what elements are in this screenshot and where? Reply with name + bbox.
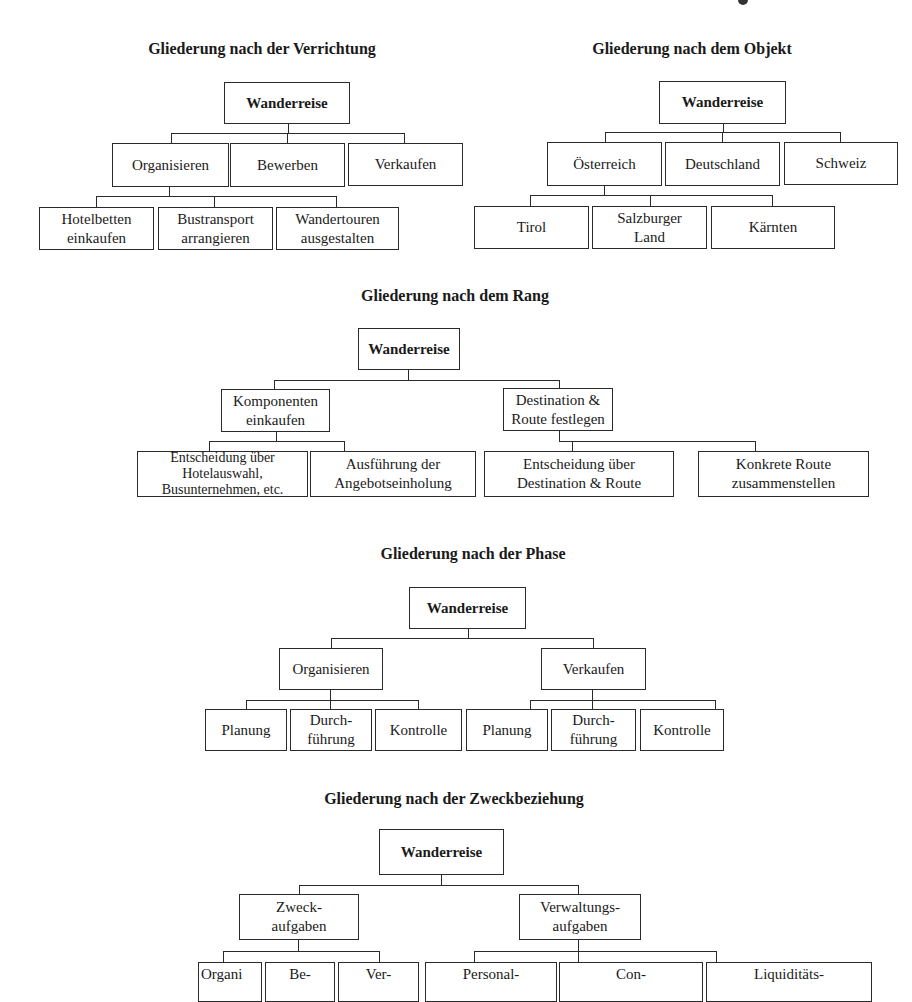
connector (404, 133, 405, 143)
node-ver: Ver- (338, 962, 419, 1002)
connector (96, 196, 337, 197)
section-title: Gliederung nach der Zweckbeziehung (324, 790, 584, 808)
connector (723, 124, 724, 132)
connector (605, 132, 841, 133)
connector (474, 951, 717, 952)
connector (336, 196, 337, 207)
connector (468, 629, 469, 638)
connector (572, 441, 756, 442)
connector (530, 195, 531, 206)
connector (604, 186, 605, 195)
connector (605, 132, 606, 142)
connector (755, 441, 756, 451)
node-bustransport: Bustransport arrangieren (158, 207, 273, 250)
node-verkaufen: Verkaufen (541, 648, 646, 690)
connector (246, 700, 247, 709)
section-title: Gliederung nach der Verrichtung (148, 40, 376, 58)
node-personal: Personal- (425, 962, 557, 1002)
node-wandertouren: Wandertouren ausgestalten (276, 207, 399, 250)
node-be: Be- (265, 962, 335, 1002)
node-bewerben: Bewerben (230, 143, 345, 187)
connector (209, 441, 345, 442)
connector (299, 885, 579, 886)
node-durchfuehrung: Durch- führung (551, 709, 636, 751)
node-verwaltungsaufgaben: Verwaltungs- aufgaben (519, 894, 641, 940)
connector (715, 700, 716, 709)
connector (530, 195, 773, 196)
node-komponenten-einkaufen: Komponenten einkaufen (221, 389, 330, 432)
connector (408, 370, 409, 380)
node-schweiz: Schweiz (784, 142, 898, 185)
page-fragment-mark (738, 0, 748, 5)
connector (530, 700, 716, 701)
connector (559, 441, 573, 442)
connector (171, 133, 405, 134)
connector (276, 432, 277, 441)
node-deutschland: Deutschland (665, 142, 780, 186)
node-entscheidung-hotelauswahl: Entscheidung über Hotelauswahl, Busunter… (137, 451, 308, 497)
connector (530, 700, 531, 709)
node-tirol: Tirol (474, 206, 589, 249)
connector (379, 951, 380, 962)
connector (559, 380, 560, 388)
node-hotelbetten: Hotelbetten einkaufen (39, 207, 154, 250)
node-kontrolle: Kontrolle (640, 709, 724, 751)
connector (274, 380, 560, 381)
connector (331, 638, 594, 639)
node-kontrolle: Kontrolle (375, 709, 462, 751)
node-konkrete-route: Konkrete Route zusammenstellen (698, 451, 869, 497)
connector (298, 940, 299, 951)
root-node: Wanderreise (224, 82, 350, 124)
connector (287, 133, 288, 143)
node-planung: Planung (205, 709, 287, 751)
node-salzburger-land: Salzburger Land (592, 206, 707, 249)
connector (418, 700, 419, 709)
connector (592, 700, 593, 709)
connector (559, 431, 560, 441)
connector (716, 951, 717, 962)
connector (441, 875, 442, 885)
connector (330, 690, 331, 700)
node-entscheidung-destination: Entscheidung über Destination & Route (484, 451, 674, 497)
node-organisieren: Organisieren (279, 648, 383, 690)
node-oesterreich: Österreich (547, 142, 662, 186)
connector (288, 124, 289, 133)
section-title: Gliederung nach der Phase (380, 545, 565, 563)
connector (722, 132, 723, 142)
node-planung: Planung (466, 709, 548, 751)
connector (592, 690, 593, 700)
connector (169, 187, 170, 196)
connector (344, 441, 345, 451)
connector (223, 951, 224, 962)
connector (331, 638, 332, 648)
connector (214, 196, 215, 207)
connector (209, 441, 210, 451)
root-node: Wanderreise (659, 81, 786, 124)
root-node: Wanderreise (358, 328, 460, 370)
connector (223, 951, 380, 952)
node-kaernten: Kärnten (711, 206, 835, 249)
node-liquiditaets: Liquiditäts- (706, 962, 872, 1002)
root-node: Wanderreise (379, 829, 504, 875)
connector (593, 638, 594, 648)
node-con: Con- (559, 962, 703, 1002)
connector (330, 700, 331, 709)
node-organi: Organi (198, 962, 262, 1002)
connector (578, 951, 579, 962)
connector (96, 196, 97, 207)
connector (474, 951, 475, 962)
connector (578, 940, 579, 951)
node-zweckaufgaben: Zweck- aufgaben (239, 894, 359, 940)
connector (572, 441, 573, 451)
connector (171, 133, 172, 143)
connector (246, 700, 419, 701)
node-verkaufen: Verkaufen (348, 143, 463, 186)
section-title: Gliederung nach dem Objekt (592, 40, 792, 58)
connector (650, 195, 651, 206)
root-node: Wanderreise (409, 587, 526, 629)
node-organisieren: Organisieren (112, 143, 229, 187)
node-destination-route: Destination & Route festlegen (503, 388, 613, 431)
node-durchfuehrung: Durch- führung (290, 709, 372, 751)
connector (274, 380, 275, 389)
connector (299, 885, 300, 894)
